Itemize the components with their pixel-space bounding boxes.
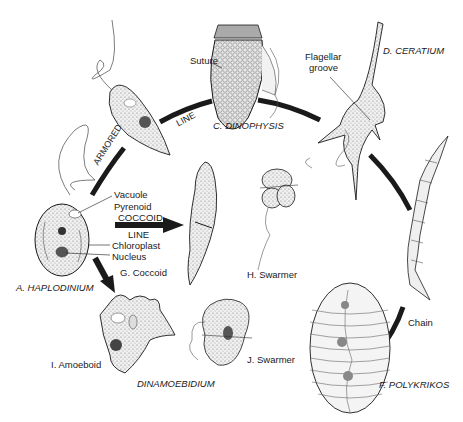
label-coccoid-line: LINE bbox=[128, 230, 149, 240]
label-g-coccoid: G. Coccoid bbox=[120, 268, 167, 278]
label-chain: Chain bbox=[408, 318, 433, 328]
coccoid-cell bbox=[188, 162, 217, 285]
label-j-swarmer: J. Swarmer bbox=[247, 355, 295, 365]
label-suture: Suture bbox=[190, 56, 218, 66]
dinophysis-cell bbox=[210, 25, 279, 129]
label-i-amoeboid: I. Amoeboid bbox=[51, 360, 101, 370]
armored-swarmer-cell bbox=[92, 20, 170, 155]
polykrikos-cell bbox=[310, 283, 390, 413]
label-h-swarmer: H. Swarmer bbox=[247, 270, 297, 280]
amoeboid-cell bbox=[100, 295, 175, 373]
label-groove: groove bbox=[309, 63, 338, 73]
h-swarmer-cell bbox=[258, 158, 312, 270]
label-polykrikos: F. POLYKRIKOS bbox=[379, 380, 449, 390]
amoeboid-arrow bbox=[95, 258, 115, 293]
label-dinophysis: C. DINOPHYSIS bbox=[213, 121, 284, 131]
label-vacuole: Vacuole bbox=[114, 190, 148, 200]
label-pyrenoid: Pyrenoid bbox=[114, 202, 152, 212]
label-coccoid: COCCOID bbox=[118, 213, 163, 223]
label-nucleus: Nucleus bbox=[112, 252, 146, 262]
label-ceratium: D. CERATIUM bbox=[383, 46, 444, 56]
j-swarmer-cell bbox=[190, 299, 252, 365]
dinoflagellate-diagram: Suture Flagellar groove D. CERATIUM C. D… bbox=[0, 0, 463, 422]
label-haplodinium: A. HAPLODINIUM bbox=[16, 283, 94, 293]
ceratium-cell bbox=[318, 22, 385, 200]
chain-colony bbox=[408, 136, 449, 300]
label-flagellar: Flagellar bbox=[305, 52, 341, 62]
label-chloroplast: Chloroplast bbox=[112, 241, 160, 251]
label-dinamoebidium: DINAMOEBIDIUM bbox=[137, 379, 215, 389]
